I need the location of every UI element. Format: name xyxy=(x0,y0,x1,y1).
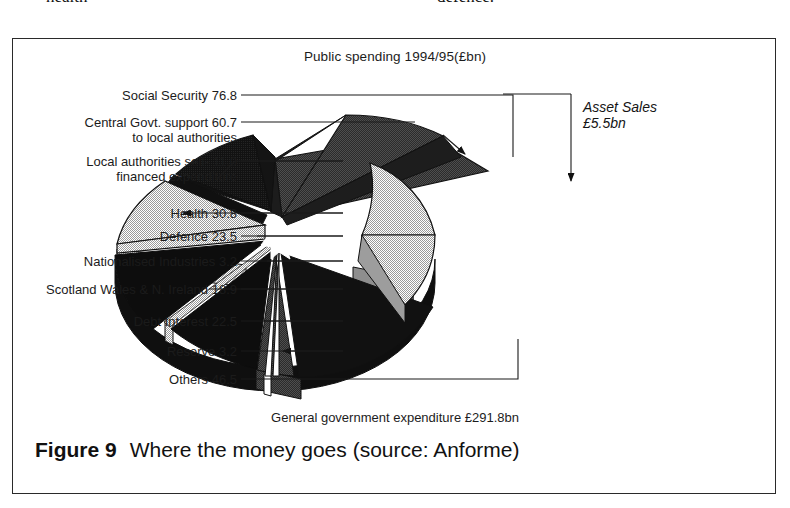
label-debt-interest: Debt Interest 22.5 xyxy=(31,314,237,329)
label-central-govt-support: Central Govt. support 60.7 to local auth… xyxy=(31,115,237,145)
chart-footnote: General government expenditure £291.8bn xyxy=(13,410,777,425)
bullet-label-defence: defence. xyxy=(437,0,494,6)
label-reserve: Reserve 3.2 xyxy=(31,344,237,359)
label-local-authorities: Local authorities self- 11.0 financed ex… xyxy=(31,154,237,184)
figure-number: Figure 9 xyxy=(35,438,117,461)
chart-label-column: Social Security 76.8 Central Govt. suppo… xyxy=(13,39,777,495)
bullet-item-defence: defence. xyxy=(420,0,494,7)
figure-caption-text: Where the money goes (source: Anforme) xyxy=(130,438,520,461)
label-defence: Defence 23.5 xyxy=(31,229,237,244)
page-top-bullet-strip: health defence. xyxy=(0,0,790,22)
label-health: Health 30.8 xyxy=(31,206,237,221)
figure-caption: Figure 9Where the money goes (source: An… xyxy=(35,438,755,462)
figure-frame: Public spending 1994/95(£bn) xyxy=(12,38,776,494)
label-nationalised-industries: Nationalised Industries 3.2 xyxy=(21,254,237,269)
bullet-label-health: health xyxy=(46,0,88,6)
label-scotland-wales-ni: Scotland Wales & N. Ireland 18.9 xyxy=(13,282,237,297)
callout-asset-sales-line2: £5.5bn xyxy=(583,115,626,131)
label-central-govt-line1: Central Govt. support 60.7 xyxy=(85,115,237,130)
callout-asset-sales-line1: Asset Sales xyxy=(583,99,657,115)
label-social-security: Social Security 76.8 xyxy=(31,88,237,103)
callout-asset-sales: Asset Sales £5.5bn xyxy=(583,99,657,131)
label-local-authorities-line2: financed expenditure xyxy=(31,169,237,184)
label-others: Others 46.5 xyxy=(31,372,237,387)
label-local-authorities-line1: Local authorities self- 11.0 xyxy=(86,154,237,169)
bullet-item-health: health xyxy=(28,0,88,7)
label-central-govt-line2: to local authorities xyxy=(31,130,237,145)
